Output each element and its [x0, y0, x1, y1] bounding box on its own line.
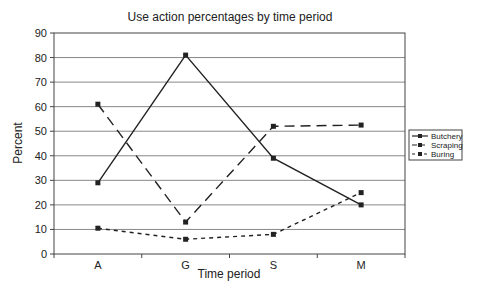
data-point-marker	[95, 226, 100, 231]
data-point-marker	[95, 180, 100, 185]
x-tick-label: S	[270, 259, 277, 271]
data-point-marker	[271, 156, 276, 161]
data-point-marker	[183, 53, 188, 58]
data-point-marker	[271, 232, 276, 237]
legend: ButcheryScrapingBuring	[409, 130, 463, 160]
legend-swatch-marker	[418, 143, 422, 147]
data-point-marker	[95, 102, 100, 107]
y-tick-label: 20	[35, 199, 47, 211]
data-point-marker	[271, 124, 276, 129]
legend-label: Scraping	[431, 141, 463, 150]
series-scraping	[95, 102, 363, 225]
plot-area-frame	[54, 33, 405, 254]
series-buring	[95, 190, 363, 242]
legend-swatch-marker	[418, 134, 422, 138]
line-chart: Use action percentages by time period 01…	[0, 0, 481, 296]
y-axis-ticks: 0102030405060708090	[35, 27, 54, 260]
y-tick-label: 60	[35, 101, 47, 113]
x-axis-label: Time period	[198, 267, 261, 281]
x-tick-label: G	[181, 259, 190, 271]
legend-label: Butchery	[431, 132, 463, 141]
y-tick-label: 40	[35, 150, 47, 162]
y-tick-label: 10	[35, 223, 47, 235]
gridlines	[54, 58, 405, 230]
legend-label: Buring	[431, 150, 454, 159]
data-series	[95, 53, 363, 242]
legend-swatch-marker	[418, 152, 422, 156]
x-tick-label: A	[94, 259, 102, 271]
data-point-marker	[359, 123, 364, 128]
y-tick-label: 80	[35, 52, 47, 64]
series-butchery	[95, 53, 363, 208]
y-tick-label: 70	[35, 76, 47, 88]
data-point-marker	[183, 220, 188, 225]
data-point-marker	[359, 202, 364, 207]
x-tick-label: M	[357, 259, 366, 271]
y-tick-label: 50	[35, 125, 47, 137]
y-tick-label: 90	[35, 27, 47, 39]
series-line	[98, 193, 361, 240]
y-tick-label: 30	[35, 174, 47, 186]
data-point-marker	[359, 190, 364, 195]
chart-title: Use action percentages by time period	[128, 10, 333, 24]
data-point-marker	[183, 237, 188, 242]
y-tick-label: 0	[41, 248, 47, 260]
series-line	[98, 55, 361, 205]
y-axis-label: Percent	[11, 122, 25, 164]
